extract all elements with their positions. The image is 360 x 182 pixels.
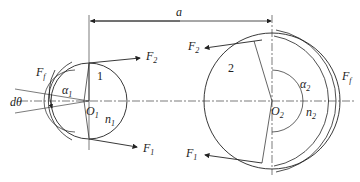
label-f1-small: F1 (142, 141, 154, 157)
label-ff-small: Ff (35, 65, 47, 81)
label-alpha1: α1 (62, 83, 72, 99)
label-pulley-1: 1 (97, 69, 103, 83)
belt-drive-diagram: a 1 2 O1 O2 α1 α2 n1 n2 dθ Ff Ff F2 F1 F… (0, 0, 360, 182)
label-alpha2: α2 (300, 77, 310, 93)
label-n2: n2 (306, 105, 316, 121)
tension-f1-small (89, 139, 137, 147)
label-ff-large: Ff (341, 69, 353, 85)
label-f2-small: F2 (145, 49, 157, 65)
label-a: a (176, 5, 182, 19)
tension-f2-small (89, 58, 140, 63)
label-n1: n1 (105, 112, 115, 128)
label-f2-large: F2 (187, 39, 199, 55)
tension-f2-large (205, 40, 262, 48)
label-o2: O2 (271, 104, 284, 120)
label-pulley-2: 2 (228, 61, 234, 75)
label-f1-large: F1 (185, 146, 197, 162)
label-o1: O1 (86, 104, 99, 120)
label-dtheta: dθ (10, 95, 22, 109)
tension-f1-large (205, 155, 262, 163)
